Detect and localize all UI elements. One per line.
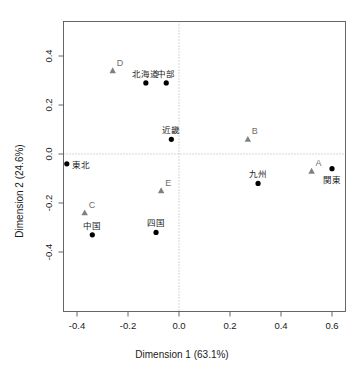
- data-point-circle: [255, 181, 260, 186]
- data-point-label: 関東: [323, 173, 341, 185]
- data-point-label: 東北: [72, 158, 90, 170]
- plot-frame: [64, 22, 346, 312]
- data-point-circle: [90, 232, 95, 237]
- data-point-label: A: [316, 158, 322, 168]
- data-point-circle: [164, 80, 169, 85]
- data-point-label: C: [89, 200, 96, 210]
- x-tick-label: 0.6: [325, 320, 338, 331]
- y-tick-label: 0.0: [43, 147, 54, 160]
- data-point-label: 北海道: [132, 67, 159, 79]
- data-point-circle: [329, 166, 334, 171]
- x-tick-label: -0.2: [120, 320, 136, 331]
- y-axis-title: Dimension 2 (24.6%): [14, 0, 28, 382]
- data-point-triangle: [158, 187, 164, 193]
- data-point-label: 中部: [157, 67, 175, 79]
- data-point-triangle: [245, 136, 251, 142]
- x-axis-title: Dimension 1 (63.1%): [0, 349, 364, 360]
- correspondence-analysis-biplot: Dimension 1 (63.1%) Dimension 2 (24.6%) …: [0, 0, 364, 382]
- data-point-label: D: [117, 58, 124, 68]
- data-point-label: B: [252, 126, 258, 136]
- data-point-label: E: [165, 178, 171, 188]
- data-point-triangle: [308, 168, 314, 174]
- x-tick-label: 0.0: [172, 320, 185, 331]
- data-point-circle: [143, 80, 148, 85]
- y-tick-label: -0.4: [43, 244, 54, 260]
- data-point-triangle: [109, 67, 115, 73]
- x-tick-label: -0.4: [69, 320, 85, 331]
- x-tick-label: 0.4: [274, 320, 287, 331]
- data-point-label: 近畿: [162, 123, 180, 135]
- data-point-label: 中国: [83, 219, 101, 231]
- data-point-label: 九州: [249, 167, 267, 179]
- y-tick-label: 0.2: [43, 98, 54, 111]
- data-point-circle: [153, 230, 158, 235]
- data-point-circle: [169, 137, 174, 142]
- data-point-label: 四国: [147, 216, 165, 228]
- y-tick-label: 0.4: [43, 49, 54, 62]
- y-tick-label: -0.2: [43, 195, 54, 211]
- data-point-circle: [64, 161, 69, 166]
- x-tick-label: 0.2: [223, 320, 236, 331]
- data-point-triangle: [81, 209, 87, 215]
